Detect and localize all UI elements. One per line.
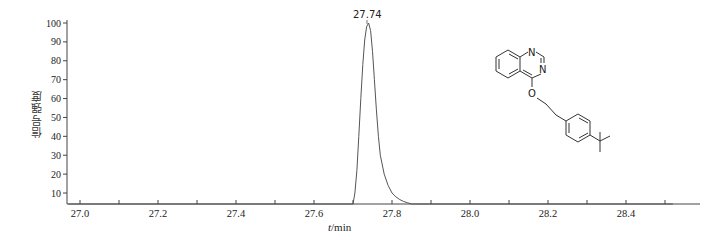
x-tick-label: 28.4 [617,208,636,219]
y-tick-label: 50 [51,112,61,123]
chemical-structure [496,50,610,152]
x-tick-label: 27.6 [305,208,323,219]
atom-label-o: O [528,88,536,99]
x-axis-label-unit: /min [331,221,351,233]
chromatogram-chart: 102030405060708090100 27.027.227.427.627… [0,0,704,240]
axes: 102030405060708090100 27.027.227.427.627… [46,18,700,220]
x-axis-label: t/min [328,221,351,233]
y-tick-label: 40 [51,131,61,142]
x-tick-label: 28.0 [461,208,479,219]
x-tick-label: 27.2 [149,208,167,219]
x-ticks: 27.027.227.427.627.828.028.228.4 [71,200,665,219]
x-tick-label: 27.4 [227,208,246,219]
atom-label-n3: N [539,64,546,75]
y-tick-label: 60 [51,93,61,104]
benzo-ring [496,50,520,78]
y-tick-label: 70 [51,74,61,85]
chromatogram-trace [68,23,673,204]
x-tick-label: 28.2 [539,208,557,219]
y-ticks: 102030405060708090100 [46,18,67,199]
y-tick-label: 10 [51,188,61,199]
y-tick-label: 80 [51,55,61,66]
phenyl-ring [566,114,590,142]
y-axis-label: 信号强度 [30,90,46,138]
x-tick-label: 27.8 [383,208,401,219]
y-tick-label: 20 [51,169,61,180]
y-tick-label: 30 [51,150,61,161]
y-tick-label: 90 [51,36,61,47]
y-tick-label: 100 [46,18,61,29]
x-tick-label: 27.0 [71,208,89,219]
atom-label-n1: N [528,47,535,58]
peak-label: 27.74 [353,9,382,20]
